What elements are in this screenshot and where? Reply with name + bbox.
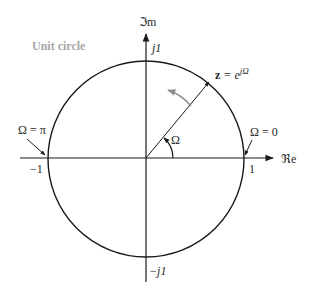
angle-label: Ω [171,133,180,147]
real-axis-label: ℜe [281,152,296,166]
tick-j1: j1 [150,41,161,55]
z-vector-label: z = ejΩ [215,66,249,82]
imaginary-axis-label: ℑm [139,15,157,29]
unit-circle-diagram: Unit circle ℑm ℜe j1 −j1 1 −1 z = ejΩ Ω … [0,0,313,291]
unit-circle-label: Unit circle [32,39,86,53]
rotation-arrow [168,90,191,106]
z-exponent: jΩ [239,66,250,76]
tick-neg-1: −1 [30,162,43,176]
omega-pi-label: Ω = π [18,123,46,137]
omega-pi-pointer [27,139,45,155]
omega-zero-label: Ω = 0 [250,125,278,139]
tick-neg-j1: −j1 [149,264,166,278]
omega-zero-pointer [245,140,252,155]
z-equals: = e [220,68,240,82]
tick-1: 1 [249,162,255,176]
